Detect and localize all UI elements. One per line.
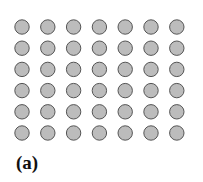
- grid-dot: [66, 83, 80, 97]
- grid-dot: [15, 126, 29, 140]
- grid-dot: [15, 83, 29, 97]
- grid-dot: [66, 20, 80, 34]
- grid-dot: [41, 126, 55, 140]
- grid-dot: [66, 105, 80, 119]
- grid-dot: [92, 41, 106, 55]
- grid-dot: [118, 20, 132, 34]
- grid-dot: [41, 20, 55, 34]
- grid-dot: [170, 105, 184, 119]
- grid-dot: [118, 126, 132, 140]
- grid-dot: [170, 126, 184, 140]
- grid-dot: [66, 41, 80, 55]
- grid-dot: [41, 83, 55, 97]
- grid-dot: [118, 41, 132, 55]
- grid-dot: [118, 83, 132, 97]
- grid-dot: [15, 41, 29, 55]
- grid-dot: [92, 126, 106, 140]
- grid-dot: [66, 126, 80, 140]
- grid-dot: [92, 20, 106, 34]
- grid-dot: [118, 105, 132, 119]
- grid-dot: [144, 62, 158, 76]
- grid-dot: [144, 105, 158, 119]
- grid-dot: [144, 20, 158, 34]
- grid-dot: [144, 126, 158, 140]
- grid-dot: [41, 105, 55, 119]
- grid-dot: [41, 62, 55, 76]
- grid-dot: [144, 83, 158, 97]
- grid-dot: [118, 62, 132, 76]
- grid-dot: [92, 105, 106, 119]
- grid-dot: [170, 41, 184, 55]
- grid-dot: [66, 62, 80, 76]
- grid-dot: [15, 62, 29, 76]
- grid-dot: [41, 41, 55, 55]
- figure-label: (a): [16, 152, 38, 174]
- grid-dot: [170, 83, 184, 97]
- grid-dot: [144, 41, 158, 55]
- grid-dot: [15, 105, 29, 119]
- grid-dot: [92, 62, 106, 76]
- grid-dot: [92, 83, 106, 97]
- grid-dot: [15, 20, 29, 34]
- grid-dot: [170, 62, 184, 76]
- grid-dot: [170, 20, 184, 34]
